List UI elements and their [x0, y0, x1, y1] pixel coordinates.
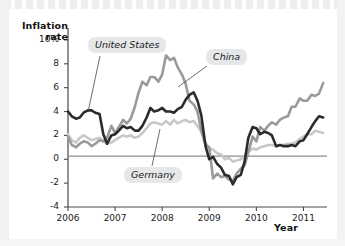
y-tick-label: 0: [33, 153, 59, 163]
x-tick-label: 2008: [144, 213, 180, 223]
x-axis-title: Year: [274, 222, 298, 233]
y-axis-title-line1: Inflation: [22, 20, 68, 31]
x-tick-label: 2006: [50, 213, 86, 223]
y-tick-label: 8: [33, 58, 59, 68]
y-tick-label: 4: [33, 106, 59, 116]
y-tick-label: 2: [33, 129, 59, 139]
x-tick-marks: [68, 207, 303, 211]
x-tick-label: 2009: [191, 213, 227, 223]
y-tick-label: -2: [33, 177, 59, 187]
y-tick-label: -4: [33, 201, 59, 211]
y-tick-label: 10%: [33, 34, 59, 44]
x-tick-label: 2010: [238, 213, 274, 223]
y-tick-label: 6: [33, 82, 59, 92]
leader-line-united-states: [88, 56, 100, 112]
series-label-united-states: United States: [88, 37, 166, 53]
chart-page: Inflation rate Year 10%86420-2-4 2006200…: [0, 0, 345, 246]
series-label-germany: Germany: [124, 167, 182, 183]
x-tick-label: 2007: [97, 213, 133, 223]
series-label-china: China: [206, 49, 247, 65]
annotation-leader-lines: [88, 56, 207, 166]
data-series-group: [68, 55, 323, 184]
leader-line-germany: [152, 129, 160, 166]
x-tick-label: 2011: [285, 213, 321, 223]
